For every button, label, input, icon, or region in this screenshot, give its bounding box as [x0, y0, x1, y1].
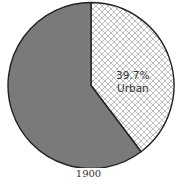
chart-caption-year: 1900 [0, 168, 177, 179]
urban-name-label: Urban [117, 82, 149, 94]
pie-slices [8, 3, 174, 169]
pie-chart: 39.7% Urban [0, 0, 177, 168]
urban-percent-label: 39.7% [116, 69, 149, 81]
